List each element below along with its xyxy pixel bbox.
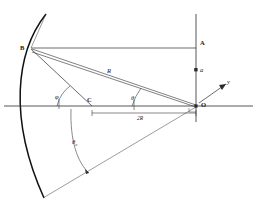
right-angle-marker-o — [189, 108, 196, 112]
axis-marker-a — [194, 68, 197, 71]
label-offset-a: a — [200, 66, 203, 73]
label-angle-phi: φ — [55, 93, 59, 100]
label-radius-r: R — [106, 67, 111, 74]
label-angle-theta-zero-subscript: o — [75, 142, 77, 147]
label-point-c: C — [87, 96, 92, 103]
ray-diagram-svg: B A C O y R a φ θ θo 2R — [0, 0, 257, 207]
label-dimension-2r: 2R — [137, 115, 144, 121]
angle-arrowhead-theta-zero — [85, 169, 89, 174]
origin-marker — [194, 104, 197, 107]
label-axis-y: y — [226, 78, 230, 85]
label-point-b: B — [20, 44, 25, 51]
arc-tangent-stub-upper — [31, 14, 46, 48]
label-point-o: O — [201, 101, 206, 108]
label-dimension-2r-symbol: R — [139, 115, 144, 121]
figure-container: B A C O y R a φ θ θo 2R — [0, 0, 257, 207]
label-angle-theta-zero: θo — [72, 138, 77, 147]
label-point-a: A — [200, 39, 205, 46]
line-b-to-c — [31, 49, 92, 106]
y-axis-arrowhead — [219, 84, 226, 90]
lower-ray-o-to-arc — [43, 107, 196, 198]
